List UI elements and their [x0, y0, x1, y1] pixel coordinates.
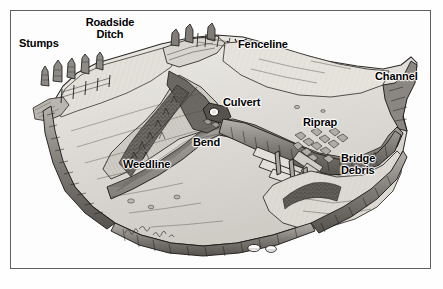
illustration-canvas: Stumps Roadside Ditch Fenceline Channel … [0, 0, 443, 289]
illustration-frame: Stumps Roadside Ditch Fenceline Channel … [10, 10, 431, 269]
terrain-artwork [11, 11, 432, 270]
